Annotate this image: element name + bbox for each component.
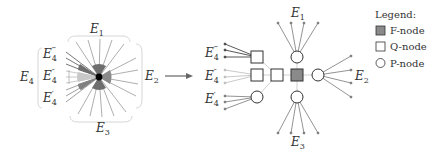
q-node-center (271, 69, 283, 81)
f-node-root (291, 69, 303, 81)
q-node-legend-icon (376, 42, 385, 51)
q-node-E4-triple (251, 51, 263, 63)
label-E2-right: E2 (354, 69, 369, 85)
label-E3-right: E3 (290, 135, 305, 151)
label-E4-triple-left: E4‴ (42, 45, 57, 63)
label-E4-single-right: E4′ (204, 90, 219, 108)
p-node-legend-icon (376, 59, 385, 68)
label-E1-left: E1 (89, 22, 104, 38)
legend-q-node: Q-node (390, 41, 427, 52)
p-node-E3 (291, 91, 303, 103)
diagram-canvas: E1 E2 E3 E4 E4‴ E4″ E4′ (0, 0, 442, 151)
p-node-E1 (291, 51, 303, 63)
p-node-E2 (312, 69, 324, 81)
legend-p-node: P-node (390, 58, 424, 69)
left-fan-diagram: E1 E2 E3 E4 E4‴ E4″ E4′ (19, 22, 159, 137)
label-E3-left: E3 (95, 121, 110, 137)
legend-title: Legend: (375, 9, 416, 20)
label-E4-single-left: E4′ (42, 89, 57, 107)
right-tree-diagram: E1 E2 E3 E4‴ E4″ E4′ (204, 6, 369, 151)
legend-f-node: F-node (390, 25, 425, 36)
label-E2-left: E2 (144, 69, 159, 85)
legend: Legend: F-node Q-node P-node (375, 9, 427, 69)
f-node-legend-icon (376, 26, 385, 35)
label-E4-double-left: E4″ (42, 67, 57, 85)
q-node-E4-double (251, 69, 263, 81)
label-E1-right: E1 (290, 6, 305, 22)
p-node-E4-single (251, 91, 263, 103)
transform-arrow (165, 73, 193, 79)
label-E4-double-right: E4″ (204, 67, 219, 85)
label-E4-triple-right: E4‴ (204, 44, 219, 62)
label-E4-left: E4 (19, 70, 34, 86)
